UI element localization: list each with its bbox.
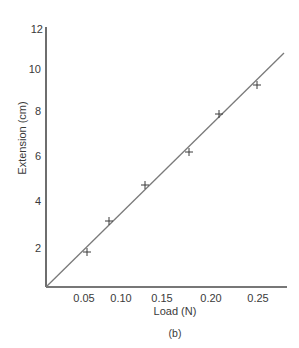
y-tick-label: 8 bbox=[35, 105, 41, 117]
figure-caption: (b) bbox=[169, 327, 182, 339]
x-tick-label: 0.05 bbox=[73, 292, 94, 304]
y-tick-label: 6 bbox=[35, 150, 41, 162]
x-axis-title: Load (N) bbox=[154, 305, 197, 317]
y-tick-label: 4 bbox=[35, 195, 41, 207]
y-tick-labels: 2 4 6 8 10 12 bbox=[29, 23, 43, 254]
data-point-plus-icon bbox=[105, 217, 113, 225]
x-tick-labels: 0.05 0.10 0.15 0.20 0.25 bbox=[73, 292, 268, 304]
y-tick-label: 10 bbox=[29, 63, 41, 75]
data-point-plus-icon bbox=[215, 110, 223, 118]
y-tick-label: 12 bbox=[31, 23, 43, 35]
y-tick-label: 2 bbox=[35, 242, 41, 254]
data-markers bbox=[83, 81, 261, 256]
x-tick-label: 0.20 bbox=[200, 292, 221, 304]
x-tick-label: 0.10 bbox=[110, 292, 131, 304]
x-tick-label: 0.25 bbox=[247, 292, 268, 304]
best-fit-line bbox=[46, 53, 284, 287]
x-tick-label: 0.15 bbox=[151, 292, 172, 304]
y-axis-title: Extension (cm) bbox=[16, 101, 28, 174]
chart: Extension (cm) 2 4 6 8 10 12 0.05 0.10 0… bbox=[0, 0, 299, 348]
